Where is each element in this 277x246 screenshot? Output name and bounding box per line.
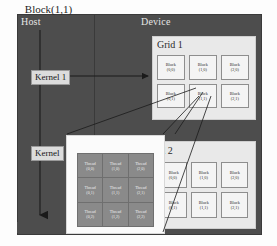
- thread-index: (1,2): [112, 214, 120, 219]
- block-index: (1,0): [199, 67, 207, 72]
- grid-2-block-area: Block (0,0) Block (1,0) Block (2,0) Bloc…: [160, 162, 248, 218]
- block-index: (0,0): [169, 175, 177, 180]
- block-index: (2,0): [231, 175, 239, 180]
- thread-cell: Thread (2,0): [129, 154, 153, 177]
- block-index: (2,1): [231, 96, 239, 101]
- thread-index: (2,2): [137, 214, 145, 219]
- block-index: (0,1): [167, 96, 175, 101]
- thread-cell: Thread (0,1): [78, 178, 102, 201]
- grid-1-label: Grid 1: [157, 39, 183, 50]
- block-cell: Block (2,1): [221, 84, 249, 109]
- thread-index: (0,0): [86, 166, 94, 171]
- block-cell: Block (1,0): [191, 162, 218, 188]
- device-label: Device: [141, 16, 171, 27]
- block-index: (1,1): [199, 96, 207, 101]
- block-index: (0,0): [167, 67, 175, 72]
- grid-1-block-area: Block (0,0) Block (1,0) Block (2,0) Bloc…: [157, 55, 249, 108]
- thread-cell: Thread (0,0): [78, 154, 102, 177]
- thread-cell: Thread (1,2): [103, 203, 127, 226]
- thread-grid: Thread (0,0) Thread (1,0) Thread (2,0) T…: [77, 153, 154, 227]
- thread-index: (0,2): [86, 214, 94, 219]
- thread-cell: Thread (1,0): [103, 154, 127, 177]
- thread-index: (2,0): [137, 166, 145, 171]
- block-index: (2,1): [231, 205, 239, 210]
- thread-cell: Thread (2,2): [129, 203, 153, 226]
- block-index: (2,0): [231, 67, 239, 72]
- thread-cell: Thread (2,1): [129, 178, 153, 201]
- host-label: Host: [21, 16, 41, 27]
- thread-index: (0,1): [86, 190, 94, 195]
- block-index: (1,1): [200, 205, 208, 210]
- thread-cell: Thread (1,1): [103, 178, 127, 201]
- cuda-programming-model-diagram: Host Device Grid 1 Block (0,0) Block (1,…: [0, 0, 277, 246]
- block-cell: Block (2,0): [221, 55, 249, 80]
- block-cell-highlighted: Block (1,1): [189, 84, 217, 109]
- thread-index: (2,1): [137, 190, 145, 195]
- block-index: (0,1): [169, 205, 177, 210]
- block-cell: Block (2,0): [221, 162, 248, 188]
- thread-index: (1,1): [112, 190, 120, 195]
- thread-cell: Thread (0,2): [78, 203, 102, 226]
- kernel-2-label: Kernel: [31, 146, 64, 161]
- block-index: (1,0): [200, 175, 208, 180]
- thread-index: (1,0): [112, 166, 120, 171]
- block-cell: Block (1,1): [191, 192, 218, 218]
- kernel-1-label: Kernel 1: [31, 70, 70, 85]
- block-cell: Block (0,1): [157, 84, 185, 109]
- block-cell: Block (0,0): [157, 55, 185, 80]
- block-cell: Block (1,0): [189, 55, 217, 80]
- block-detail-title: Block(1,1): [0, 3, 97, 15]
- block-cell: Block (2,1): [221, 192, 248, 218]
